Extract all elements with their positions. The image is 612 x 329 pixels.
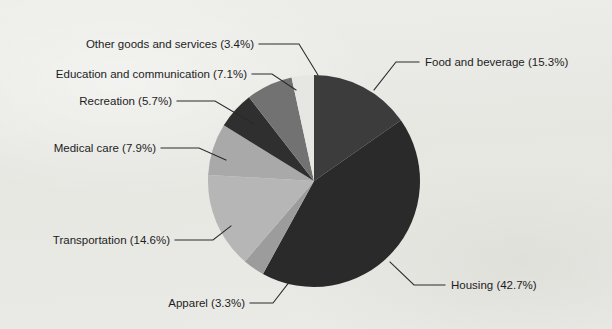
pie-label-other-goods: Other goods and services (3.4%) <box>86 38 254 50</box>
pie-label-housing: Housing (42.7%) <box>451 279 537 291</box>
pie-label-transportation: Transportation (14.6%) <box>53 234 170 246</box>
pie-label-recreation: Recreation (5.7%) <box>79 95 172 107</box>
leader-line-food <box>374 62 419 90</box>
leader-line-apparel <box>250 281 290 303</box>
pie-label-apparel: Apparel (3.3%) <box>168 297 245 309</box>
pie-label-education: Education and communication (7.1%) <box>56 68 247 80</box>
pie-label-food-and-beverage: Food and beverage (15.3%) <box>425 56 568 68</box>
leader-line-housing <box>390 262 445 285</box>
pie-slices-group <box>208 75 420 287</box>
pie-chart: Other goods and services (3.4%) Educatio… <box>0 0 612 329</box>
pie-label-medical-care: Medical care (7.9%) <box>54 142 156 154</box>
leader-line-other-goods <box>259 44 318 75</box>
